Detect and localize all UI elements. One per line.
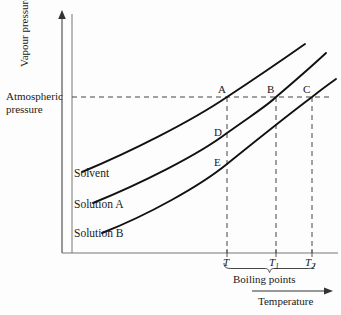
tick-label-T-base: T: [223, 256, 229, 268]
point-label-C: C: [303, 84, 310, 95]
curve-solution-a: [93, 53, 326, 203]
y-axis-title: Vapour pressure: [19, 0, 30, 80]
point-label-E: E: [214, 157, 221, 168]
curve-label-solvent: Solvent: [74, 168, 109, 180]
point-label-B: B: [267, 84, 274, 95]
temperature-axis-arrow: [252, 287, 333, 294]
atmospheric-pressure-label: Atmospheric pressure: [6, 90, 63, 115]
y-axis: [58, 10, 66, 253]
atmospheric-pressure-label-line2: pressure: [6, 103, 63, 116]
boiling-points-label: Boiling points: [233, 274, 296, 285]
curve-label-solution-a: Solution A: [74, 199, 124, 211]
point-label-A: A: [218, 84, 226, 95]
vapour-pressure-diagram: Vapour pressure Atmospheric pressure Sol…: [0, 0, 341, 315]
atmospheric-pressure-label-line1: Atmospheric: [6, 90, 63, 103]
tick-label-T2: T2: [305, 257, 315, 271]
tick-label-T: T: [223, 257, 229, 268]
point-label-D: D: [214, 127, 222, 138]
tick-label-T2-sub: 2: [311, 262, 315, 271]
tick-label-T1-sub: 1: [275, 262, 279, 271]
curve-solvent: [82, 44, 305, 172]
curve-label-solution-b: Solution B: [74, 228, 124, 240]
x-axis-title: Temperature: [258, 296, 313, 307]
tick-label-T1: T1: [269, 257, 279, 271]
diagram-canvas: [0, 0, 341, 315]
